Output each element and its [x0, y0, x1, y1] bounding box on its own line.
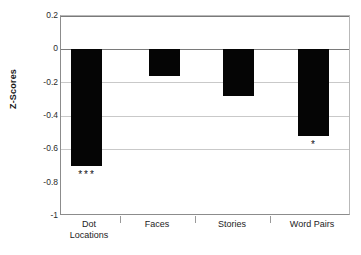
- y-tick-label-0: 0.2: [24, 11, 58, 20]
- y-tick-label-6: -1: [24, 211, 58, 220]
- category-label-stories: Stories: [201, 219, 263, 230]
- y-axis-label: Z-Scores: [8, 54, 18, 124]
- category-label-word-pairs: Word Pairs: [276, 219, 348, 230]
- x-tick-separator-3: [270, 216, 271, 223]
- bar-chart: Z-Scores 0.2 0 -0.2 -0.4 -0.6 -0.8 -1 **…: [0, 0, 361, 255]
- bar-faces: [149, 49, 180, 76]
- gridline-0.2-top: [61, 16, 349, 17]
- y-tick-label-1: 0: [24, 44, 58, 53]
- bar-dot-locations: [71, 49, 102, 166]
- y-tick-label-2: -0.2: [24, 78, 58, 87]
- category-label-dot-locations: Dot Locations: [58, 219, 120, 241]
- significance-dot-locations: ***: [65, 170, 109, 180]
- y-tick-label-5: -0.8: [24, 178, 58, 187]
- plot-area: *** *: [60, 15, 350, 215]
- y-tick-label-3: -0.4: [24, 111, 58, 120]
- y-tick-label-4: -0.6: [24, 144, 58, 153]
- bar-word-pairs: [298, 49, 329, 136]
- significance-word-pairs: *: [292, 140, 336, 150]
- bar-stories: [223, 49, 254, 96]
- x-tick-separator-1: [120, 216, 121, 223]
- x-tick-separator-2: [195, 216, 196, 223]
- category-label-faces: Faces: [126, 219, 188, 230]
